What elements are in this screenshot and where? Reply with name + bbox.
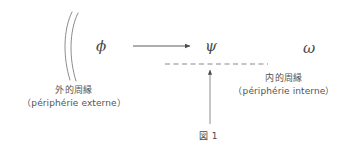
outer-periphery-arcs [65,12,78,81]
symbol-omega: ω [303,41,315,56]
outer-periphery-label-french: （périphérie externe） [4,97,144,110]
outer-periphery-label-japanese: 外的周縁 [4,84,144,97]
symbol-psi: ψ [205,39,217,54]
outer-periphery-label: 外的周縁 （périphérie externe） [4,84,144,110]
figure-caption: 図 1 [199,129,218,142]
symbol-phi: ϕ [96,39,106,54]
inner-periphery-label-japanese: 内的周縁 [222,72,346,85]
figure-diagram: ϕ ψ ω 外的周縁 （périphérie externe） 内的周縁 （pé… [0,0,352,150]
inner-periphery-label: 内的周縁 （périphérie interne） [222,72,346,98]
inner-periphery-label-french: （périphérie interne） [222,85,346,98]
